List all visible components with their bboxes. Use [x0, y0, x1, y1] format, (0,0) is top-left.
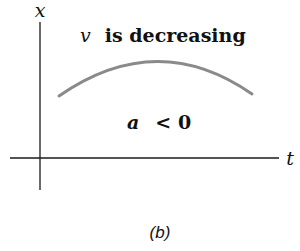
acceleration-symbol: a — [127, 111, 139, 133]
velocity-text: is decreasing — [105, 24, 246, 46]
panel-label: (b) — [150, 223, 171, 242]
acceleration-annotation: a < 0 — [127, 111, 191, 133]
t-axis-label: t — [286, 147, 294, 169]
acceleration-condition: < 0 — [155, 111, 191, 133]
motion-diagram: x t v is decreasing a < 0 (b) — [0, 0, 300, 251]
position-curve — [59, 61, 252, 96]
velocity-symbol: v — [80, 24, 91, 46]
x-axis-label: x — [35, 0, 46, 21]
velocity-annotation: v is decreasing — [80, 24, 246, 46]
